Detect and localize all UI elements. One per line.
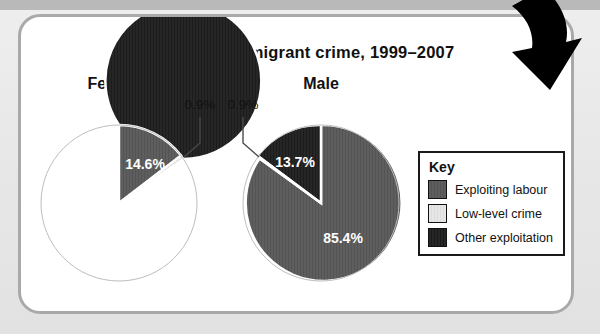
arrow-down-left-cursor-icon xyxy=(466,0,586,104)
label-female-large: 84.5% xyxy=(75,242,115,258)
legend-item-other-exploitation: Other exploitation xyxy=(428,228,555,247)
pie-female: 84.5% 14.6% 0.9% xyxy=(41,17,261,281)
legend-label-low-level-crime: Low-level crime xyxy=(455,207,542,221)
legend-item-low-level-crime: Low-level crime xyxy=(428,204,555,223)
legend-swatch-exploiting-labour xyxy=(428,180,447,199)
label-male-mid: 13.7% xyxy=(275,154,315,170)
label-female-small: 0.9% xyxy=(185,97,216,112)
legend-label-other-exploitation: Other exploitation xyxy=(455,231,553,245)
legend-title: Key xyxy=(429,159,555,175)
legend-swatch-low-level-crime xyxy=(428,204,447,223)
legend-box: Key Exploiting labour Low-level crime Ot… xyxy=(418,151,565,256)
legend-swatch-other-exploitation xyxy=(428,228,447,247)
pie-male: 85.4% 13.7% 0.9% xyxy=(228,97,402,281)
legend-label-exploiting-labour: Exploiting labour xyxy=(455,183,547,197)
label-female-mid: 14.6% xyxy=(125,156,165,172)
legend-item-exploiting-labour: Exploiting labour xyxy=(428,180,555,199)
label-male-large: 85.4% xyxy=(323,230,363,246)
label-male-small: 0.9% xyxy=(228,97,259,112)
